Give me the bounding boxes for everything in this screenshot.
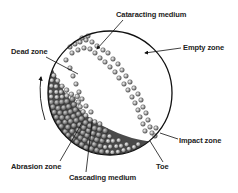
label-cataracting-medium: Cataracting medium (116, 11, 186, 19)
label-toe: Toe (156, 163, 168, 171)
label-dead-zone: Dead zone (11, 48, 48, 56)
leader-impact-zone (160, 133, 178, 139)
leader-dead-zone (46, 57, 78, 74)
rotation-arrow-icon (40, 77, 45, 120)
leader-toe (150, 141, 163, 162)
label-cascading-medium: Cascading medium (69, 174, 136, 182)
label-empty-zone: Empty zone (183, 44, 224, 52)
label-abrasion-zone: Abrasion zone (11, 163, 61, 171)
leader-cataracting (97, 20, 123, 49)
leader-empty-zone (145, 48, 181, 53)
charge-region (40, 55, 158, 170)
label-impact-zone: Impact zone (179, 137, 221, 145)
grinding-balls-charge (48, 73, 141, 155)
